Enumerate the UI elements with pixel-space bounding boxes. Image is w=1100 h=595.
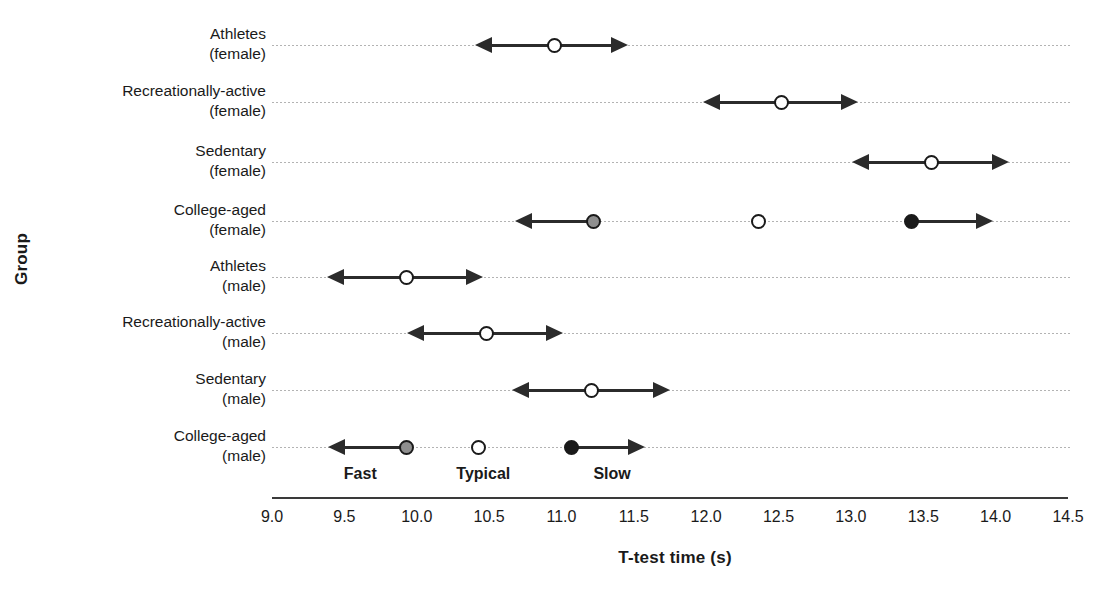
zone-label-slow: Slow (532, 465, 692, 483)
x-tick-label: 9.5 (314, 508, 374, 526)
arrowhead-left-icon (852, 154, 869, 170)
slow-marker (904, 214, 919, 229)
range-arrow-line (781, 101, 844, 104)
arrowhead-left-icon (475, 37, 492, 53)
typical-marker (471, 440, 486, 455)
category-label: Recreationally-active(male) (0, 312, 266, 352)
range-arrow-line (421, 332, 487, 335)
category-label-sex: (female) (0, 44, 266, 64)
typical-marker (774, 95, 789, 110)
typical-marker (479, 326, 494, 341)
arrowhead-right-icon (546, 325, 563, 341)
arrowhead-left-icon (407, 325, 424, 341)
x-tick-label: 12.0 (676, 508, 736, 526)
arrowhead-left-icon (515, 213, 532, 229)
range-arrow-line (866, 161, 932, 164)
typical-marker (924, 155, 939, 170)
x-tick-label: 11.5 (604, 508, 664, 526)
category-label-group: Athletes (210, 257, 266, 274)
category-label-sex: (female) (0, 161, 266, 181)
category-label-sex: (male) (0, 389, 266, 409)
x-tick-label: 10.0 (387, 508, 447, 526)
typical-marker (547, 38, 562, 53)
slow-marker (564, 440, 579, 455)
category-label-group: College-aged (174, 427, 266, 444)
range-arrow-line (572, 446, 632, 449)
arrowhead-right-icon (841, 94, 858, 110)
gridline (272, 390, 1070, 391)
range-arrow-line (912, 220, 979, 223)
gridline (272, 45, 1070, 46)
x-axis-title: T-test time (s) (475, 548, 875, 568)
gridline (272, 333, 1070, 334)
fast-marker (399, 440, 414, 455)
arrowhead-left-icon (703, 94, 720, 110)
category-label-sex: (male) (0, 276, 266, 296)
category-label-group: College-aged (174, 201, 266, 218)
typical-marker (751, 214, 766, 229)
category-label-sex: (female) (0, 220, 266, 240)
x-tick-label: 14.0 (966, 508, 1026, 526)
gridline (272, 102, 1070, 103)
chart-figure: Group Athletes(female)Recreationally-act… (0, 0, 1100, 595)
x-tick-label: 13.0 (821, 508, 881, 526)
x-tick-label: 13.5 (893, 508, 953, 526)
category-label-group: Sedentary (195, 370, 266, 387)
arrowhead-left-icon (327, 269, 344, 285)
arrowhead-right-icon (628, 439, 645, 455)
range-arrow-line (342, 446, 406, 449)
range-arrow-line (341, 276, 407, 279)
x-tick-label: 12.5 (749, 508, 809, 526)
x-tick-label: 10.5 (459, 508, 519, 526)
category-label-group: Recreationally-active (122, 313, 266, 330)
range-arrow-line (932, 161, 995, 164)
typical-marker (584, 383, 599, 398)
fast-marker (586, 214, 601, 229)
arrowhead-right-icon (653, 382, 670, 398)
category-label: Sedentary(female) (0, 141, 266, 181)
category-label: College-aged(female) (0, 200, 266, 240)
range-arrow-line (407, 276, 470, 279)
category-label-sex: (male) (0, 446, 266, 466)
arrowhead-left-icon (328, 439, 345, 455)
x-axis-line (272, 497, 1068, 499)
category-label-group: Recreationally-active (122, 82, 266, 99)
range-arrow-line (592, 389, 656, 392)
category-label-group: Athletes (210, 25, 266, 42)
category-label-sex: (female) (0, 101, 266, 121)
category-label: Athletes(male) (0, 256, 266, 296)
category-label: Recreationally-active(female) (0, 81, 266, 121)
range-arrow-line (717, 101, 781, 104)
typical-marker (399, 270, 414, 285)
category-label: College-aged(male) (0, 426, 266, 466)
x-tick-label: 11.0 (531, 508, 591, 526)
x-tick-label: 9.0 (242, 508, 302, 526)
arrowhead-right-icon (611, 37, 628, 53)
category-label: Sedentary(male) (0, 369, 266, 409)
arrowhead-left-icon (512, 382, 529, 398)
range-arrow-line (486, 332, 549, 335)
category-label-group: Sedentary (195, 142, 266, 159)
arrowhead-right-icon (466, 269, 483, 285)
x-tick-label: 14.5 (1038, 508, 1098, 526)
range-arrow-line (554, 44, 614, 47)
arrowhead-right-icon (976, 213, 993, 229)
range-arrow-line (526, 389, 592, 392)
arrowhead-right-icon (992, 154, 1009, 170)
range-arrow-line (529, 220, 593, 223)
category-label-sex: (male) (0, 332, 266, 352)
category-label: Athletes(female) (0, 24, 266, 64)
range-arrow-line (489, 44, 555, 47)
